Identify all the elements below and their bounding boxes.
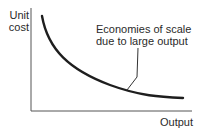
- y-axis-label-line2: cost: [3, 21, 29, 33]
- annotation: Economies of scale due to large output: [96, 23, 191, 47]
- annotation-line2: due to large output: [96, 35, 191, 47]
- y-axis-label-line1: Unit: [3, 9, 29, 21]
- annotation-line1: Economies of scale: [96, 23, 191, 35]
- annotation-leader-line: [127, 48, 138, 90]
- y-axis-label: Unit cost: [3, 9, 29, 33]
- x-axis-label: Output: [160, 116, 193, 128]
